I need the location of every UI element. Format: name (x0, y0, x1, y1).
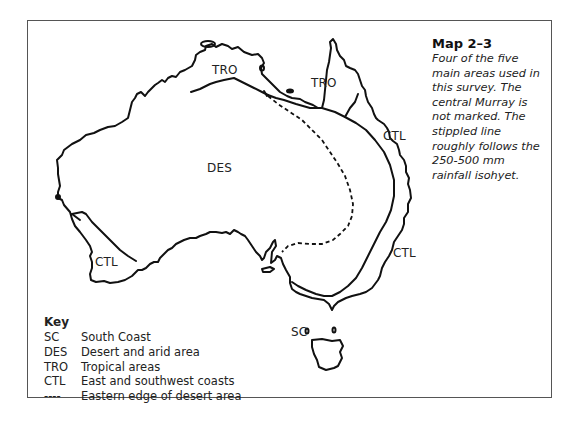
key-label: Desert and arid area (81, 345, 200, 359)
caption-title: Map 2–3 (432, 36, 547, 51)
map-key: Key SC South Coast DES Desert and arid a… (44, 315, 241, 403)
region-label-sc: SC (291, 325, 307, 339)
key-label: Tropical areas (81, 360, 160, 374)
ctl-southwest-boundary-left (72, 214, 80, 220)
ctl-southwest-boundary (72, 212, 136, 261)
map-caption: Map 2–3 Four of the five main areas used… (432, 36, 547, 183)
region-label-des: DES (207, 161, 232, 175)
region-label-ctl-southwest: CTL (95, 255, 118, 269)
key-label: East and southwest coasts (81, 374, 234, 388)
key-label: Eastern edge of desert area (81, 389, 241, 403)
key-code: CTL (44, 374, 81, 388)
kangaroo-island (262, 267, 274, 272)
shark-bay-island (56, 195, 60, 199)
key-row-tro: TRO Tropical areas (44, 359, 241, 374)
key-title: Key (44, 315, 241, 329)
mainland-coastline (57, 39, 411, 310)
tro-north-boundary (191, 78, 268, 95)
key-code: DES (44, 345, 81, 359)
tasmania-coastline (312, 339, 343, 370)
ctl-inner-boundary (268, 95, 394, 296)
mornington-island (287, 90, 293, 93)
key-row-sc: SC South Coast (44, 330, 241, 345)
key-code: SC (44, 330, 81, 344)
key-code: TRO (44, 360, 81, 374)
key-label: South Coast (81, 330, 151, 344)
gulf-separator (264, 91, 267, 96)
region-label-ctl-east-lower: CTL (393, 246, 416, 260)
key-row-des: DES Desert and arid area (44, 345, 241, 360)
region-label-ctl-east-upper: CTL (383, 129, 406, 143)
key-row-dashed: ---- Eastern edge of desert area (44, 389, 241, 404)
flinders-island (333, 328, 336, 333)
dashed-line-symbol: ---- (44, 389, 81, 403)
region-label-tro-north: TRO (212, 63, 238, 77)
caption-text: Four of the five main areas used in this… (432, 52, 547, 183)
key-row-ctl: CTL East and southwest coasts (44, 374, 241, 389)
desert-edge-dashed-line (268, 96, 353, 252)
tro-cape-boundary (345, 94, 358, 117)
region-label-tro-cape: TRO (311, 76, 337, 90)
